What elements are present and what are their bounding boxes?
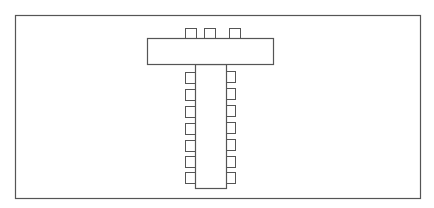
right-chair-6 <box>227 157 236 168</box>
head-chair-2 <box>205 29 216 39</box>
right-chair-2 <box>227 89 236 100</box>
left-chair-4 <box>186 124 196 135</box>
right-chair-4 <box>227 123 236 134</box>
left-chair-2 <box>186 90 196 101</box>
left-chair-6 <box>186 157 196 168</box>
stem-table-right-chairs <box>227 72 236 184</box>
seating-diagram-canvas <box>0 0 434 208</box>
stem-table-left-chairs <box>186 73 196 184</box>
seating-diagram <box>0 0 434 208</box>
right-chair-7 <box>227 173 236 184</box>
left-chair-5 <box>186 141 196 152</box>
left-chair-7 <box>186 173 196 184</box>
right-chair-3 <box>227 106 236 117</box>
stem-table <box>196 65 227 189</box>
right-chair-5 <box>227 140 236 151</box>
head-table-chairs <box>186 29 241 39</box>
head-chair-1 <box>186 29 197 39</box>
right-chair-1 <box>227 72 236 83</box>
left-chair-3 <box>186 107 196 118</box>
left-chair-1 <box>186 73 196 84</box>
head-table <box>148 39 274 65</box>
head-chair-3 <box>230 29 241 39</box>
